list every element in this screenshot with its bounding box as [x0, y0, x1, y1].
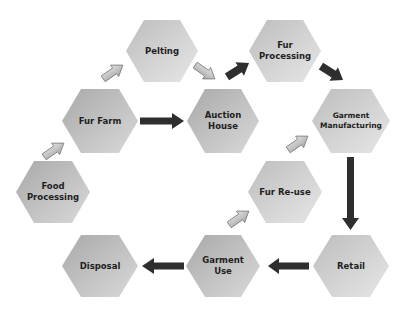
node-food-processing-label: Food Processing	[16, 161, 90, 223]
node-retail-label: Retail	[313, 235, 389, 297]
node-auction-house-label: Auction House	[187, 89, 259, 153]
node-pelting-label: Pelting	[126, 20, 198, 82]
arrow-retail-to-garmentuse-icon	[268, 258, 309, 274]
node-fur-processing-label: Fur Processing	[249, 20, 321, 82]
arrow-garmentuse-to-disposal-icon	[142, 258, 184, 274]
node-fur-reuse-label: Fur Re-use	[248, 161, 322, 223]
arrow-furfarm-to-auction-icon	[140, 113, 184, 129]
node-disposal-label: Disposal	[62, 235, 138, 297]
arrow-furfarm-to-pelting-icon	[99, 59, 127, 84]
arrow-furprocessing-to-garment-icon	[317, 59, 348, 86]
arrow-reuse-to-garment-icon	[284, 130, 312, 155]
node-fur-farm-label: Fur Farm	[62, 89, 138, 153]
node-garment-manufacturing-label: Garment Manufacturing	[312, 89, 390, 153]
arrow-garment-to-retail-icon	[342, 157, 359, 230]
node-garment-use-label: Garment Use	[186, 235, 260, 297]
